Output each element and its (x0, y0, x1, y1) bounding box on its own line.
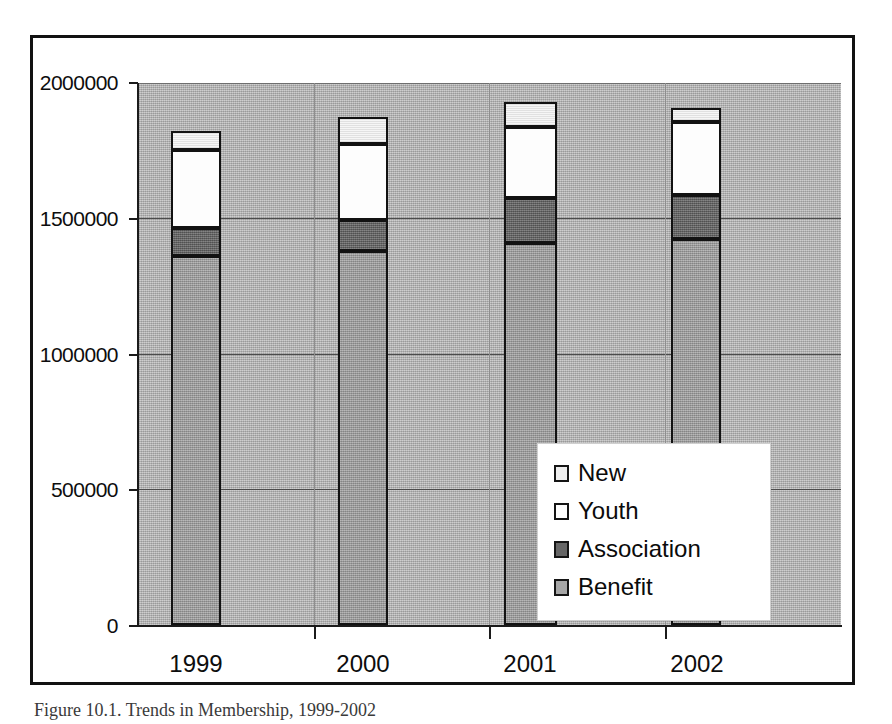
y-tick-mark-0 (129, 625, 138, 627)
bar-segment-youth-2001[interactable] (504, 127, 557, 198)
bar-segment-youth-1999[interactable] (171, 150, 221, 228)
bar-segment-benefit-1999[interactable] (171, 256, 221, 625)
bar-segment-new-2001[interactable] (504, 102, 557, 127)
y-tick-mark-1000000 (129, 354, 138, 356)
x-tick-label-1999: 1999 (169, 650, 222, 678)
y-tick-mark-500000 (129, 489, 138, 491)
y-tick-label-1500000: 1500000 (40, 207, 118, 231)
y-tick-mark-2000000 (129, 82, 138, 84)
legend-label-new: New (578, 461, 626, 485)
bar-stack-2000[interactable] (338, 117, 388, 625)
figure-frame: 2000000 1500000 1000000 500000 0 1999 20… (30, 35, 855, 685)
bar-stack-1999[interactable] (171, 131, 221, 625)
legend-item-youth[interactable]: Youth (554, 492, 744, 530)
legend-label-youth: Youth (578, 499, 639, 523)
bar-segment-youth-2002[interactable] (671, 122, 721, 195)
bar-segment-new-2000[interactable] (338, 117, 388, 144)
bar-segment-association-2002[interactable] (671, 195, 721, 239)
legend-item-new[interactable]: New (554, 454, 744, 492)
legend-swatch-association-icon (554, 541, 569, 558)
legend-swatch-youth-icon (554, 503, 569, 520)
y-tick-label-0: 0 (107, 614, 118, 638)
x-tick-mark-3 (665, 626, 667, 639)
y-tick-label-1000000: 1000000 (40, 343, 118, 367)
x-tick-label-2000: 2000 (336, 650, 389, 678)
x-tick-mark-1 (314, 626, 316, 639)
legend-swatch-benefit-icon (554, 579, 569, 596)
y-tick-label-500000: 500000 (51, 478, 118, 502)
legend-label-benefit: Benefit (578, 575, 653, 599)
category-separator-2 (489, 83, 490, 625)
figure-caption: Figure 10.1. Trends in Membership, 1999-… (34, 700, 376, 724)
legend-label-association: Association (578, 537, 701, 561)
bar-segment-association-1999[interactable] (171, 228, 221, 256)
category-separator-1 (314, 83, 315, 625)
y-tick-mark-1500000 (129, 218, 138, 220)
y-tick-label-2000000: 2000000 (40, 71, 118, 95)
x-tick-mark-2 (489, 626, 491, 639)
legend-swatch-new-icon (554, 465, 569, 482)
bar-segment-youth-2000[interactable] (338, 144, 388, 220)
x-tick-label-2002: 2002 (670, 650, 723, 678)
bar-segment-new-2002[interactable] (671, 108, 721, 122)
legend-item-benefit[interactable]: Benefit (554, 568, 744, 606)
x-tick-label-2001: 2001 (503, 650, 556, 678)
bar-segment-benefit-2000[interactable] (338, 251, 388, 625)
chart-legend: New Youth Association Benefit (537, 443, 771, 621)
bar-segment-association-2001[interactable] (504, 198, 557, 243)
bar-segment-association-2000[interactable] (338, 220, 388, 251)
legend-item-association[interactable]: Association (554, 530, 744, 568)
bar-segment-new-1999[interactable] (171, 131, 221, 150)
